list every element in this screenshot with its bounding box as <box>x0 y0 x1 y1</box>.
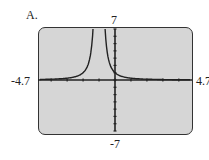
curve <box>40 29 93 80</box>
curve <box>105 29 190 80</box>
graph-plot <box>0 0 209 160</box>
